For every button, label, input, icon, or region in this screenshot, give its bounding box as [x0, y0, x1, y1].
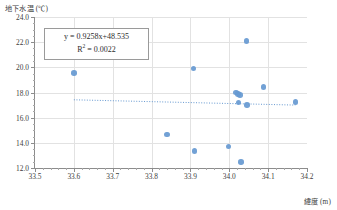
x-axis-minor-tick [66, 168, 67, 170]
x-axis-minor-tick [97, 168, 98, 170]
x-axis-minor-tick [167, 168, 168, 170]
y-axis-tick [31, 42, 35, 43]
y-axis-tick [31, 93, 35, 94]
x-axis-title: 緯度 (m) [304, 196, 331, 206]
y-axis-minor-tick [33, 74, 35, 75]
x-axis-tick-label: 34.2 [301, 172, 314, 181]
x-axis-minor-tick [144, 168, 145, 170]
y-axis-minor-tick [33, 23, 35, 24]
x-axis-minor-tick [253, 168, 254, 170]
data-point [236, 100, 242, 106]
y-axis-minor-tick [33, 149, 35, 150]
data-point [192, 148, 198, 154]
data-point [261, 84, 267, 90]
y-axis-minor-tick [33, 162, 35, 163]
data-point [191, 66, 197, 72]
r-squared-number: = 0.0022 [85, 44, 116, 53]
y-axis-tick-label: 14.0 [16, 138, 29, 147]
x-axis-minor-tick [183, 168, 184, 170]
y-axis-minor-tick [33, 111, 35, 112]
y-axis-tick-label: 16.0 [16, 113, 29, 122]
y-axis-minor-tick [33, 86, 35, 87]
data-point [226, 144, 232, 150]
x-axis-minor-tick [260, 168, 261, 170]
x-axis-minor-tick [284, 168, 285, 170]
y-axis-tick-label: 22.0 [16, 38, 29, 47]
y-axis-tick [31, 67, 35, 68]
x-axis-minor-tick [105, 168, 106, 170]
x-axis-tick-label: 34.1 [262, 172, 275, 181]
x-axis-minor-tick [136, 168, 137, 170]
data-point [71, 70, 77, 76]
y-axis-tick [31, 17, 35, 18]
x-axis-minor-tick [237, 168, 238, 170]
y-axis-minor-tick [33, 99, 35, 100]
data-point [237, 92, 243, 98]
x-axis-minor-tick [58, 168, 59, 170]
y-axis-minor-tick [33, 155, 35, 156]
x-axis-tick-label: 33.5 [29, 172, 42, 181]
x-axis-minor-tick [206, 168, 207, 170]
x-axis-minor-tick [214, 168, 215, 170]
y-axis-title: 地下水温 (℃) [5, 3, 48, 13]
y-axis-tick-label: 24.0 [16, 13, 29, 22]
y-axis-minor-tick [33, 30, 35, 31]
x-axis-minor-tick [51, 168, 52, 170]
x-axis-minor-tick [299, 168, 300, 170]
x-axis-minor-tick [175, 168, 176, 170]
y-axis-tick [31, 118, 35, 119]
data-point [293, 99, 299, 105]
x-axis-minor-tick [198, 168, 199, 170]
data-point [244, 102, 250, 108]
y-axis-tick-label: 20.0 [16, 63, 29, 72]
r-squared-value: R2 = 0.0022 [47, 43, 146, 55]
x-axis-minor-tick [245, 168, 246, 170]
x-axis-tick-label: 33.6 [67, 172, 80, 181]
x-axis-minor-tick [159, 168, 160, 170]
y-axis-minor-tick [33, 137, 35, 138]
y-axis-tick-label: 12.0 [16, 164, 29, 173]
x-axis-minor-tick [82, 168, 83, 170]
y-axis-minor-tick [33, 105, 35, 106]
y-axis-minor-tick [33, 80, 35, 81]
data-point [164, 132, 170, 138]
y-axis-minor-tick [33, 48, 35, 49]
x-axis-minor-tick [291, 168, 292, 170]
x-axis-minor-tick [128, 168, 129, 170]
y-axis-minor-tick [33, 55, 35, 56]
x-axis-tick-label: 33.7 [106, 172, 119, 181]
y-axis-minor-tick [33, 124, 35, 125]
scatter-chart: 地下水温 (℃) 12.014.016.018.020.022.024.033.… [0, 0, 337, 210]
y-axis-tick-label: 18.0 [16, 88, 29, 97]
y-axis-minor-tick [33, 130, 35, 131]
x-axis-tick-label: 33.9 [184, 172, 197, 181]
x-axis-minor-tick [43, 168, 44, 170]
data-point [244, 38, 250, 44]
x-axis-tick-label: 34.0 [223, 172, 236, 181]
y-axis-minor-tick [33, 61, 35, 62]
equation-annotation-box: y = 0.9258x+48.535 R2 = 0.0022 [44, 28, 149, 60]
x-axis-minor-tick [222, 168, 223, 170]
y-axis-tick [31, 143, 35, 144]
x-axis-minor-tick [276, 168, 277, 170]
x-axis-minor-tick [120, 168, 121, 170]
regression-equation: y = 0.9258x+48.535 [47, 32, 146, 43]
y-axis-minor-tick [33, 36, 35, 37]
data-point [238, 159, 244, 165]
x-axis-minor-tick [89, 168, 90, 170]
x-axis-tick-label: 33.8 [145, 172, 158, 181]
